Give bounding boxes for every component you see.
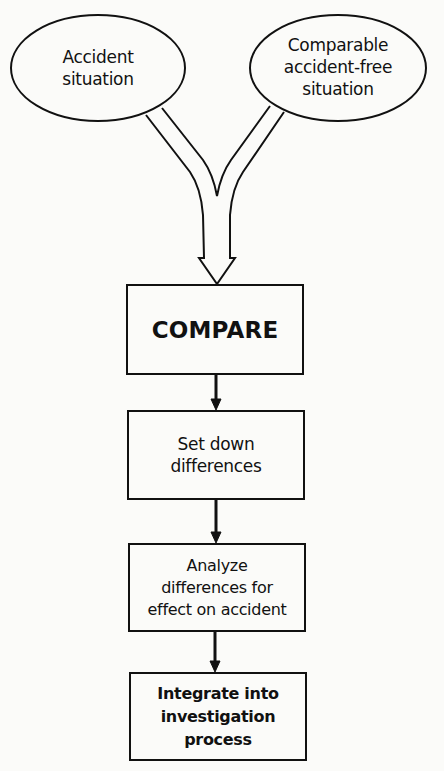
connector-layer xyxy=(0,0,444,771)
label-line: Integrate into xyxy=(157,682,278,705)
label-line: situation xyxy=(62,68,133,90)
label-line: Comparable xyxy=(284,34,392,56)
label-line: Set down xyxy=(170,433,261,455)
label-line: Accident xyxy=(62,46,133,68)
step-analyze-differences: Analyze differences for effect on accide… xyxy=(128,543,306,632)
step-compare: COMPARE xyxy=(126,284,304,375)
merge-arrow-icon xyxy=(146,106,284,284)
step-integrate: Integrate into investigation process xyxy=(129,672,307,761)
label-line: investigation xyxy=(157,705,278,728)
input-accident-situation: Accident situation xyxy=(18,30,178,106)
label-line: accident-free xyxy=(284,56,392,78)
label-line: process xyxy=(157,728,278,751)
compare-label: COMPARE xyxy=(152,317,279,343)
input-comparable-situation: Comparable accident-free situation xyxy=(258,22,418,112)
step-set-down-differences: Set down differences xyxy=(127,410,305,500)
label-line: differences xyxy=(170,455,261,477)
label-line: Analyze xyxy=(148,555,287,577)
label-line: situation xyxy=(284,78,392,100)
label-line: differences for xyxy=(148,577,287,599)
label-line: effect on accident xyxy=(148,599,287,621)
